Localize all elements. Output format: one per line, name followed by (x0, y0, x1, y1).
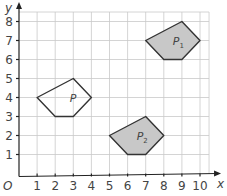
x-tick-label: 10 (192, 179, 207, 193)
y-tick-label: 8 (5, 15, 13, 29)
axes (16, 2, 221, 177)
coordinate-grid: PP1P2 1234567891012345678Oxy (0, 0, 227, 196)
x-axis (19, 174, 217, 177)
y-tick-label: 4 (5, 91, 13, 105)
shape-label-p: P (70, 92, 77, 105)
x-tick-label: 6 (124, 179, 132, 193)
y-axis-label: y (4, 1, 13, 15)
x-tick-label: 9 (178, 179, 186, 193)
y-tick-label: 3 (5, 110, 13, 124)
origin-label: O (3, 179, 12, 193)
y-tick-label: 5 (5, 72, 13, 86)
y-tick-label: 1 (5, 148, 13, 162)
x-axis-label: x (216, 177, 225, 191)
x-tick-label: 4 (88, 179, 96, 193)
x-tick-label: 1 (33, 179, 41, 193)
x-tick-label: 8 (160, 179, 168, 193)
tick-labels: 1234567891012345678Oxy (3, 1, 225, 193)
x-tick-label: 5 (106, 179, 114, 193)
y-tick-label: 7 (5, 34, 13, 48)
y-tick-label: 2 (5, 129, 13, 143)
x-tick-label: 3 (69, 179, 77, 193)
shapes: PP1P2 (37, 22, 200, 155)
y-tick-label: 6 (5, 53, 13, 67)
y-arrow-icon (16, 2, 22, 9)
x-tick-label: 2 (51, 179, 59, 193)
x-tick-label: 7 (142, 179, 150, 193)
